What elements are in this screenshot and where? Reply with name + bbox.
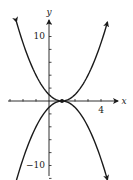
tangent-point-marker: [60, 99, 64, 103]
upward-parabola-curve: [17, 22, 108, 101]
x-axis: 4 x: [8, 96, 127, 115]
y-tick-label-neg10: −10: [26, 160, 45, 170]
x-axis-label: x: [121, 96, 126, 106]
y-axis-label: y: [45, 7, 52, 17]
parabola-chart: 4 x y 10 −10: [0, 0, 133, 180]
x-tick-label-4: 4: [98, 105, 104, 115]
y-axis: y 10 −10: [26, 7, 52, 178]
y-tick-label-10: 10: [34, 31, 46, 41]
